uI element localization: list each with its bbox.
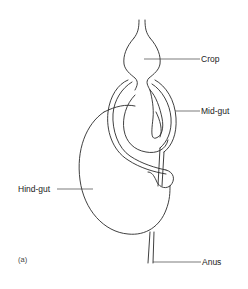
gut-diagram: Crop Mid-gut Hind-gut Anus (a) — [0, 0, 248, 289]
label-anus: Anus — [202, 258, 221, 267]
label-mid-gut: Mid-gut — [201, 107, 229, 116]
hind-gut-sac — [79, 112, 170, 234]
label-crop: Crop — [201, 55, 219, 64]
crop-outline — [124, 38, 160, 90]
rectum — [148, 232, 154, 263]
panel-label: (a) — [18, 256, 27, 264]
esophagus — [134, 20, 150, 38]
label-hind-gut: Hind-gut — [18, 185, 50, 194]
gut-drawing — [0, 0, 248, 289]
